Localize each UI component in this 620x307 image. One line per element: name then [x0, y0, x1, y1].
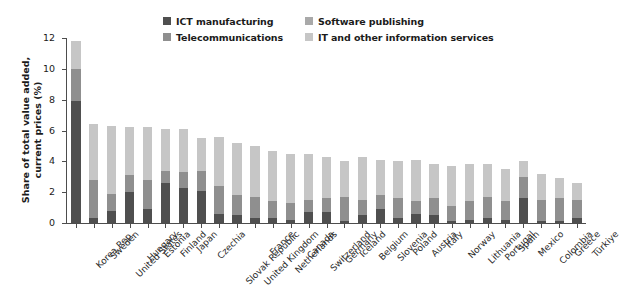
bar-segment-ict_manufacturing: [393, 218, 402, 223]
bar-segment-it_other_information_services: [537, 174, 546, 200]
bar-segment-telecommunications: [214, 186, 223, 214]
y-axis-title: Share of total value added, current pric…: [20, 30, 44, 230]
x-tick: [291, 224, 292, 228]
bar-segment-ict_manufacturing: [89, 218, 98, 223]
bar-segment-it_other_information_services: [519, 161, 528, 176]
bar-segment-telecommunications: [143, 180, 152, 209]
bar-segment-it_other_information_services: [89, 124, 98, 180]
bar: [179, 129, 188, 223]
x-tick: [201, 224, 202, 228]
y-tick: 10: [62, 69, 66, 70]
bar-segment-it_other_information_services: [340, 161, 349, 196]
x-tick: [237, 224, 238, 228]
bar: [411, 160, 420, 223]
bar: [429, 164, 438, 223]
bar-segment-ict_manufacturing: [286, 220, 295, 223]
y-tick-label: 4: [49, 155, 55, 166]
bar-segment-ict_manufacturing: [358, 215, 367, 223]
bar-segment-telecommunications: [483, 197, 492, 219]
bar: [483, 164, 492, 223]
bar: [304, 154, 313, 223]
bar-segment-telecommunications: [447, 206, 456, 221]
bar-segment-ict_manufacturing: [304, 212, 313, 223]
bar-segment-ict_manufacturing: [519, 198, 528, 223]
x-tick: [255, 224, 256, 228]
x-tick: [488, 224, 489, 228]
bar-segment-ict_manufacturing: [555, 221, 564, 223]
bar-segment-telecommunications: [107, 194, 116, 211]
bar-segment-it_other_information_services: [411, 160, 420, 202]
bar: [197, 138, 206, 223]
x-tick: [505, 224, 506, 228]
bar-segment-telecommunications: [537, 200, 546, 222]
x-tick: [112, 224, 113, 228]
bar-segment-telecommunications: [519, 177, 528, 199]
y-axis-line: [66, 38, 67, 224]
bar: [358, 157, 367, 223]
bar-segment-it_other_information_services: [376, 160, 385, 195]
bar: [572, 183, 581, 223]
bar-segment-it_other_information_services: [286, 154, 295, 203]
bar-segment-telecommunications: [376, 195, 385, 209]
y-tick-label: 6: [49, 125, 55, 136]
bar-segment-it_other_information_services: [268, 151, 277, 202]
bar: [447, 166, 456, 223]
bar-segment-telecommunications: [71, 69, 80, 101]
bar: [465, 164, 474, 223]
x-tick: [577, 224, 578, 228]
y-tick-label: 0: [49, 217, 55, 228]
bar-segment-it_other_information_services: [232, 143, 241, 195]
x-tick: [452, 224, 453, 228]
bar-segment-it_other_information_services: [304, 154, 313, 200]
x-tick: [523, 224, 524, 228]
bar-segment-telecommunications: [393, 198, 402, 218]
x-tick: [130, 224, 131, 228]
bar: [107, 126, 116, 223]
bar: [555, 178, 564, 223]
y-tick-label: 10: [43, 63, 55, 74]
x-tick: [273, 224, 274, 228]
bar-segment-ict_manufacturing: [197, 191, 206, 223]
y-tick: 6: [62, 131, 66, 132]
y-tick: 4: [62, 161, 66, 162]
bar-segment-ict_manufacturing: [214, 214, 223, 223]
bar: [537, 174, 546, 223]
bar-segment-telecommunications: [250, 197, 259, 219]
bar-segment-ict_manufacturing: [537, 221, 546, 223]
bar: [393, 161, 402, 223]
plot-area: 024681012: [67, 38, 586, 223]
bar-segment-ict_manufacturing: [322, 212, 331, 223]
bar: [214, 137, 223, 223]
bar-segment-telecommunications: [125, 175, 134, 192]
bar-segment-telecommunications: [179, 172, 188, 187]
bar-segment-telecommunications: [232, 195, 241, 215]
bar-segment-telecommunications: [411, 201, 420, 213]
bar-segment-it_other_information_services: [447, 166, 456, 206]
bar-segment-ict_manufacturing: [465, 220, 474, 223]
bar-segment-it_other_information_services: [465, 164, 474, 201]
bar-segment-telecommunications: [572, 200, 581, 219]
x-tick: [380, 224, 381, 228]
bar-segment-telecommunications: [555, 198, 564, 221]
y-axis-title-line1: Share of total value added,: [20, 30, 32, 230]
bar: [268, 151, 277, 223]
legend-label-ict-manufacturing: ICT manufacturing: [176, 16, 273, 27]
y-tick: 2: [62, 192, 66, 193]
bar: [286, 154, 295, 223]
bar-segment-ict_manufacturing: [340, 221, 349, 223]
bar: [519, 161, 528, 223]
bar: [161, 129, 170, 223]
bar-segment-ict_manufacturing: [125, 192, 134, 223]
bar-segment-it_other_information_services: [572, 183, 581, 200]
legend-swatch-software-publishing: [305, 17, 313, 25]
bar-segment-ict_manufacturing: [232, 215, 241, 223]
bar: [125, 127, 134, 223]
bar-segment-telecommunications: [89, 180, 98, 219]
bar-segment-it_other_information_services: [555, 178, 564, 198]
bar-segment-it_other_information_services: [214, 137, 223, 186]
x-tick: [327, 224, 328, 228]
bar: [501, 169, 510, 223]
bar-segment-ict_manufacturing: [268, 218, 277, 223]
bar-segment-telecommunications: [429, 198, 438, 215]
bar-segment-it_other_information_services: [501, 169, 510, 201]
